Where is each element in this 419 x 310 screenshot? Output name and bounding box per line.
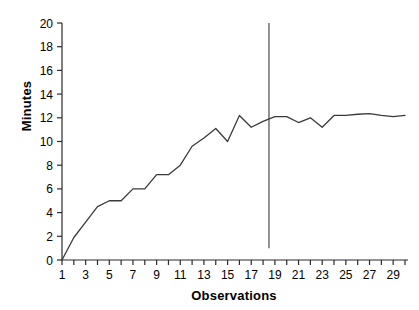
y-tick-label: 12 — [40, 111, 54, 125]
x-tick-label: 27 — [363, 268, 377, 282]
y-axis-title-wrap: Minutes — [17, 51, 37, 161]
x-tick-label: 15 — [221, 268, 235, 282]
x-tick-label: 1 — [59, 268, 66, 282]
y-axis-title: Minutes — [17, 51, 37, 161]
y-tick-label: 6 — [46, 182, 53, 196]
x-tick-label: 21 — [292, 268, 306, 282]
x-tick-label: 13 — [197, 268, 211, 282]
x-tick-label: 19 — [268, 268, 282, 282]
line-chart-plot: 02468101214161820 1357911131517192123252… — [0, 0, 419, 310]
x-tick-label: 29 — [386, 268, 400, 282]
y-tick-label: 4 — [46, 206, 53, 220]
x-tick-label: 11 — [174, 268, 187, 282]
y-tick-label: 18 — [40, 40, 54, 54]
y-tick-label: 0 — [46, 254, 53, 268]
y-tick-label: 14 — [40, 88, 54, 102]
x-tick-label: 25 — [339, 268, 353, 282]
y-tick-label: 2 — [46, 230, 53, 244]
x-tick-label: 5 — [106, 268, 113, 282]
data-series-line — [62, 114, 405, 260]
x-tick-label: 7 — [130, 268, 137, 282]
chart-container: 02468101214161820 1357911131517192123252… — [0, 0, 419, 310]
x-tick-label: 3 — [82, 268, 89, 282]
x-tick-label: 23 — [316, 268, 330, 282]
x-axis-title: Observations — [62, 286, 406, 306]
x-tick-label: 17 — [245, 268, 259, 282]
y-tick-label: 20 — [40, 17, 54, 31]
y-axis-ticks: 02468101214161820 — [40, 17, 62, 268]
y-tick-label: 10 — [40, 135, 54, 149]
x-axis-ticks: 1357911131517192123252729 — [59, 260, 405, 282]
y-tick-label: 16 — [40, 64, 54, 78]
x-tick-label: 9 — [153, 268, 160, 282]
y-tick-label: 8 — [46, 159, 53, 173]
x-axis-title-wrap: Observations — [62, 286, 406, 304]
